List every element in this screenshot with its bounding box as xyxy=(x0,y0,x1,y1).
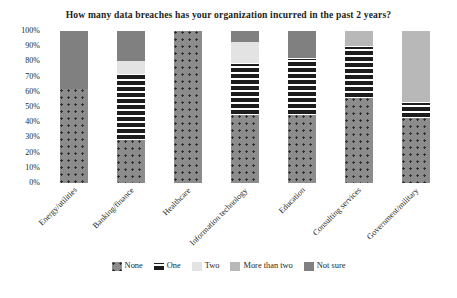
stacked-bar xyxy=(288,31,316,183)
x-axis-tick-label: Information technology xyxy=(188,186,249,247)
bar-segment xyxy=(231,42,259,63)
bar-column[interactable] xyxy=(402,31,430,183)
bar-column[interactable] xyxy=(174,31,202,183)
x-axis-tick-label: Government/military xyxy=(365,186,420,241)
bar-column[interactable] xyxy=(60,31,88,183)
y-axis-tick-label: 20% xyxy=(25,149,40,157)
bar-column[interactable] xyxy=(231,31,259,183)
legend-label: None xyxy=(125,262,143,270)
legend-swatch-icon xyxy=(192,262,202,271)
bar-column[interactable] xyxy=(288,31,316,183)
stacked-bar xyxy=(402,31,430,183)
y-axis-tick-label: 50% xyxy=(25,103,40,111)
chart-legend: NoneOneTwoMore than twoNot sure xyxy=(0,262,457,271)
bar-segment xyxy=(345,31,373,46)
y-axis-tick-label: 90% xyxy=(25,42,40,50)
bar-segment xyxy=(345,46,373,98)
x-axis-tick-label: Energy/utilities xyxy=(37,186,79,228)
legend-swatch-icon xyxy=(112,262,122,271)
legend-item[interactable]: Two xyxy=(192,262,220,271)
bar-segment xyxy=(288,115,316,183)
x-axis-tick-label: Banking/finance xyxy=(91,186,136,231)
y-axis-tick-label: 100% xyxy=(21,27,40,35)
legend-item[interactable]: Not sure xyxy=(304,262,346,271)
legend-item[interactable]: One xyxy=(154,262,181,271)
legend-swatch-icon xyxy=(304,262,314,271)
stacked-bar xyxy=(231,31,259,183)
bar-segment xyxy=(345,98,373,183)
legend-label: More than two xyxy=(243,262,292,270)
chart-title: How many data breaches has your organiza… xyxy=(0,9,457,20)
plot-area xyxy=(46,31,444,183)
bar-segment xyxy=(231,63,259,115)
bar-segment xyxy=(402,118,430,183)
x-axis-tick-label: Consulting services xyxy=(311,186,363,238)
bar-segment xyxy=(231,31,259,42)
y-axis-tick-label: 0% xyxy=(29,179,40,187)
x-axis-tick-label: Healthcare xyxy=(161,186,192,217)
bar-segment xyxy=(60,31,88,89)
bar-segment xyxy=(288,58,316,114)
legend-label: One xyxy=(167,262,181,270)
bar-segment xyxy=(288,31,316,58)
stacked-bar xyxy=(117,31,145,183)
y-axis-tick-label: 40% xyxy=(25,118,40,126)
y-axis-tick-label: 70% xyxy=(25,73,40,81)
legend-label: Not sure xyxy=(317,262,346,270)
bar-segment xyxy=(117,31,145,61)
y-axis-tick-label: 60% xyxy=(25,88,40,96)
x-axis-tick-label: Education xyxy=(277,186,307,216)
bar-segment xyxy=(117,140,145,183)
legend-item[interactable]: None xyxy=(112,262,143,271)
bar-segment xyxy=(402,102,430,117)
x-axis: Energy/utilitiesBanking/financeHealthcar… xyxy=(46,183,444,253)
stacked-bar xyxy=(60,31,88,183)
stacked-bar xyxy=(174,31,202,183)
bar-segment xyxy=(231,115,259,183)
y-axis-tick-label: 80% xyxy=(25,57,40,65)
y-axis: 0%10%20%30%40%50%60%70%80%90%100% xyxy=(0,31,44,183)
y-axis-tick-label: 10% xyxy=(25,164,40,172)
bar-column[interactable] xyxy=(345,31,373,183)
bar-segment xyxy=(174,31,202,183)
bar-segment xyxy=(117,61,145,73)
bar-segment xyxy=(60,89,88,183)
legend-item[interactable]: More than two xyxy=(230,262,292,271)
stacked-bar xyxy=(345,31,373,183)
y-axis-tick-label: 30% xyxy=(25,133,40,141)
bar-column[interactable] xyxy=(117,31,145,183)
bar-segment xyxy=(117,74,145,141)
stacked-bar-chart: How many data breaches has your organiza… xyxy=(0,0,457,298)
legend-label: Two xyxy=(205,262,220,270)
legend-swatch-icon xyxy=(154,262,164,271)
bar-segment xyxy=(402,31,430,102)
legend-swatch-icon xyxy=(230,262,240,271)
